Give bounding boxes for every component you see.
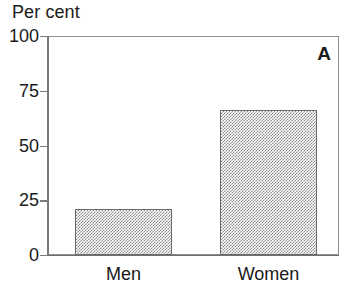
y-tick-label-75: 75	[19, 80, 39, 101]
y-tick-label-0: 0	[29, 245, 39, 266]
y-tick-25	[40, 200, 48, 201]
bar-women	[220, 110, 317, 255]
y-axis-title: Per cent	[12, 2, 80, 23]
y-tick-label-25: 25	[19, 190, 39, 211]
panel-label: A	[317, 43, 331, 65]
x-category-label-men: Men	[106, 264, 141, 285]
y-tick-50	[40, 146, 48, 147]
y-tick-100	[40, 36, 48, 37]
bar-chart-figure: Per cent 100 75 50 25 0 Men Women A	[0, 0, 353, 299]
x-category-label-women: Women	[238, 264, 300, 285]
y-tick-0	[40, 255, 48, 256]
y-tick-label-50: 50	[19, 135, 39, 156]
y-tick-75	[40, 91, 48, 92]
bar-men	[75, 209, 172, 255]
y-tick-label-100: 100	[9, 26, 39, 47]
